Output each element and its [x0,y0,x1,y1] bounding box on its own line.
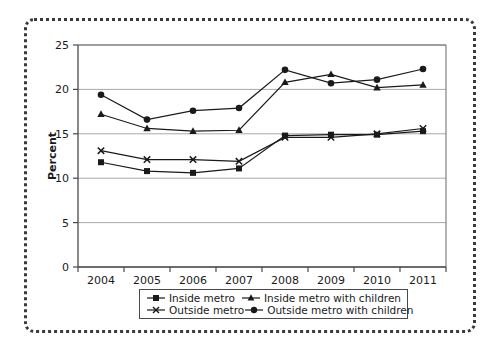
marker-triangle [327,70,334,77]
x-tick-label: 2007 [225,274,253,287]
marker-circle [98,91,105,98]
marker-triangle [419,81,426,88]
series-line [101,69,423,120]
marker-circle [328,80,335,87]
y-tick-label: 20 [55,83,69,96]
legend-key-circle-icon [244,304,264,316]
legend-key-square-icon [146,292,166,304]
marker-square [236,165,242,171]
y-tick-label: 25 [55,39,69,52]
marker-square [144,168,150,174]
x-axis-ticks [78,267,446,272]
legend-key-triangle-icon [241,292,261,304]
y-axis-ticks [73,45,78,267]
x-tick-label: 2006 [179,274,207,287]
legend-row-2: Outside metro Outside metro with childre… [146,304,401,316]
marker-circle [374,76,381,83]
x-tick-label: 2009 [317,274,345,287]
series-line [101,74,423,131]
data-series-group [97,66,426,176]
y-tick-label: 0 [62,261,69,274]
plot-frame [78,45,446,267]
legend-row-1: Inside metro Inside metro with children [146,292,401,304]
y-axis-title: Percent [46,132,59,180]
marker-circle [420,66,427,73]
marker-circle [236,105,243,112]
marker-square [98,159,104,165]
marker-triangle [97,110,104,117]
x-tick-label: 2008 [271,274,299,287]
chart-legend: Inside metro Inside metro with children … [139,289,408,319]
x-axis-tick-labels: 20042005200620072008200920102011 [87,274,437,287]
legend-label-outside-metro-with-children: Outside metro with children [267,304,413,316]
x-tick-label: 2004 [87,274,115,287]
legend-key-x-icon [146,304,166,316]
x-tick-label: 2010 [363,274,391,287]
marker-circle [144,116,151,123]
marker-square [190,170,196,176]
legend-label-outside-metro: Outside metro [169,304,244,316]
series-outside-metro-with-children [98,66,427,123]
x-tick-label: 2005 [133,274,161,287]
legend-item-inside-metro-with-children: Inside metro with children [241,292,401,304]
gridlines [78,45,446,267]
marker-circle [190,107,197,114]
series-inside-metro [98,128,426,176]
legend-item-outside-metro-with-children: Outside metro with children [244,304,413,316]
legend-item-inside-metro: Inside metro [146,292,241,304]
legend-label-inside-metro-with-children: Inside metro with children [264,292,401,304]
legend-item-outside-metro: Outside metro [146,304,244,316]
x-tick-label: 2011 [409,274,437,287]
legend-label-inside-metro: Inside metro [169,292,235,304]
y-tick-label: 5 [62,217,69,230]
marker-circle [282,67,289,74]
